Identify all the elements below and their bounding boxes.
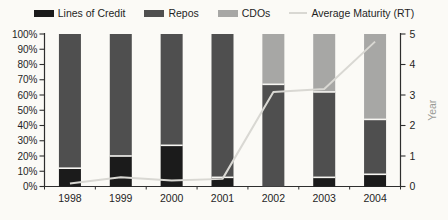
left-axis-tick-label: 80%	[17, 59, 37, 70]
maturity-line-swatch-icon	[289, 12, 307, 14]
repos-swatch-icon	[144, 10, 164, 17]
right-axis-tick-label: 5	[410, 28, 416, 40]
legend-label: Repos	[168, 7, 198, 19]
left-axis-tick-label: 0%	[23, 181, 38, 192]
bar-segment-lines-of-credit	[313, 177, 335, 186]
bar-segment-repos	[313, 92, 335, 177]
legend-item-lines-of-credit: Lines of Credit	[34, 7, 126, 19]
bar-segment-repos	[161, 34, 183, 145]
right-axis-title: Year	[426, 99, 438, 121]
left-axis-tick-label: 40%	[17, 120, 37, 131]
chart-legend: Lines of Credit Repos CDOs Average Matur…	[0, 5, 448, 21]
legend-label: Average Maturity (RT)	[311, 7, 414, 19]
bar-segment-cdos	[364, 34, 386, 119]
right-axis-tick-label: 2	[410, 119, 416, 131]
bar-segment-cdos	[313, 34, 335, 92]
left-axis-tick-label: 30%	[17, 135, 37, 146]
legend-label: Lines of Credit	[58, 7, 126, 19]
x-axis-category-label: 1998	[58, 192, 82, 204]
legend-item-cdos: CDOs	[218, 7, 271, 19]
right-axis-tick-label: 4	[410, 58, 416, 70]
left-axis-tick-label: 10%	[17, 166, 37, 177]
bar-segment-repos	[212, 34, 234, 177]
x-axis-category-label: 2004	[363, 192, 387, 204]
left-axis-tick-label: 60%	[17, 90, 37, 101]
right-axis-tick-label: 0	[410, 180, 416, 192]
bar-segment-repos	[262, 84, 284, 186]
bar-segment-repos	[110, 34, 132, 156]
bar-segment-repos	[364, 119, 386, 174]
bar-segment-lines-of-credit	[59, 168, 81, 186]
right-axis-tick-label: 3	[410, 89, 416, 101]
left-axis-tick-label: 90%	[17, 44, 37, 55]
bar-segment-lines-of-credit	[364, 174, 386, 186]
right-axis-tick-label: 1	[410, 150, 416, 162]
legend-label: CDOs	[242, 7, 271, 19]
x-axis-category-label: 2000	[160, 192, 184, 204]
legend-item-repos: Repos	[144, 7, 198, 19]
bar-segment-cdos	[262, 34, 284, 84]
x-axis-category-label: 1999	[109, 192, 133, 204]
x-axis-category-label: 2003	[313, 192, 337, 204]
x-axis-category-label: 2001	[211, 192, 235, 204]
bar-segment-repos	[59, 34, 81, 168]
x-axis-category-label: 2002	[262, 192, 286, 204]
stacked-bar-maturity-chart: 0%10%20%30%40%50%60%70%80%90%100%012345Y…	[0, 0, 448, 220]
lines-of-credit-swatch-icon	[34, 10, 54, 17]
bar-segment-lines-of-credit	[110, 156, 132, 187]
cdos-swatch-icon	[218, 10, 238, 17]
left-axis-tick-label: 20%	[17, 151, 37, 162]
legend-item-average-maturity: Average Maturity (RT)	[289, 7, 414, 19]
left-axis-tick-label: 50%	[17, 105, 37, 116]
left-axis-tick-label: 70%	[17, 74, 37, 85]
left-axis-tick-label: 100%	[12, 29, 38, 40]
